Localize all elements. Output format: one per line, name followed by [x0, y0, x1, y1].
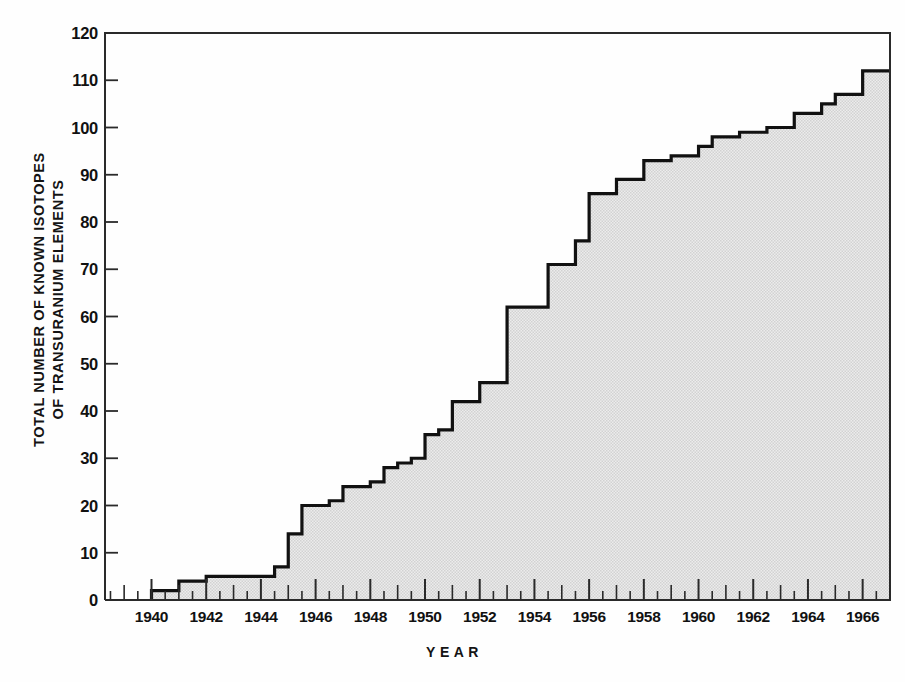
plot-area: [0, 0, 905, 682]
data-area-fill: [152, 71, 891, 600]
chart-figure: TOTAL NUMBER OF KNOWN ISOTOPES OF TRANSU…: [0, 0, 905, 682]
